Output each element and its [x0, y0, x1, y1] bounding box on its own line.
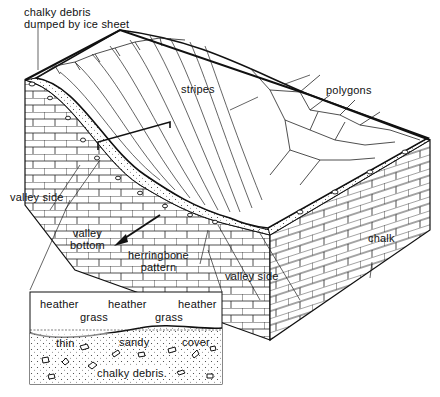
label-line: chalky debris [24, 6, 129, 18]
label-valley-side-left: valley side [10, 191, 64, 203]
inset-heather-3: heather [178, 298, 217, 310]
inset-heather-1: heather [40, 298, 79, 310]
inset-cover: cover [182, 336, 210, 348]
label-herringbone-pattern: herringbone pattern [128, 249, 189, 273]
label-line: bottom [70, 239, 105, 251]
label-chalk: chalk [368, 232, 395, 244]
label-line: dumped by ice sheet [24, 18, 129, 30]
label-valley-side-right: valley side [225, 270, 279, 282]
label-line: valley [70, 227, 105, 239]
inset-grass-2: grass [155, 311, 183, 323]
label-line: herringbone [128, 249, 189, 261]
label-chalky-debris-dumped: chalky debris dumped by ice sheet [24, 6, 129, 30]
inset-chalky-debris: chalky debris. [96, 367, 168, 379]
label-polygons: polygons [326, 84, 372, 96]
inset-sandy: sandy [119, 336, 149, 348]
label-valley-bottom: valley bottom [70, 227, 105, 251]
inset-heather-2: heather [108, 298, 147, 310]
label-line: pattern [128, 261, 189, 273]
inset-grass-1: grass [80, 311, 108, 323]
label-stripes: stripes [181, 83, 215, 95]
inset-thin: thin [56, 337, 75, 349]
